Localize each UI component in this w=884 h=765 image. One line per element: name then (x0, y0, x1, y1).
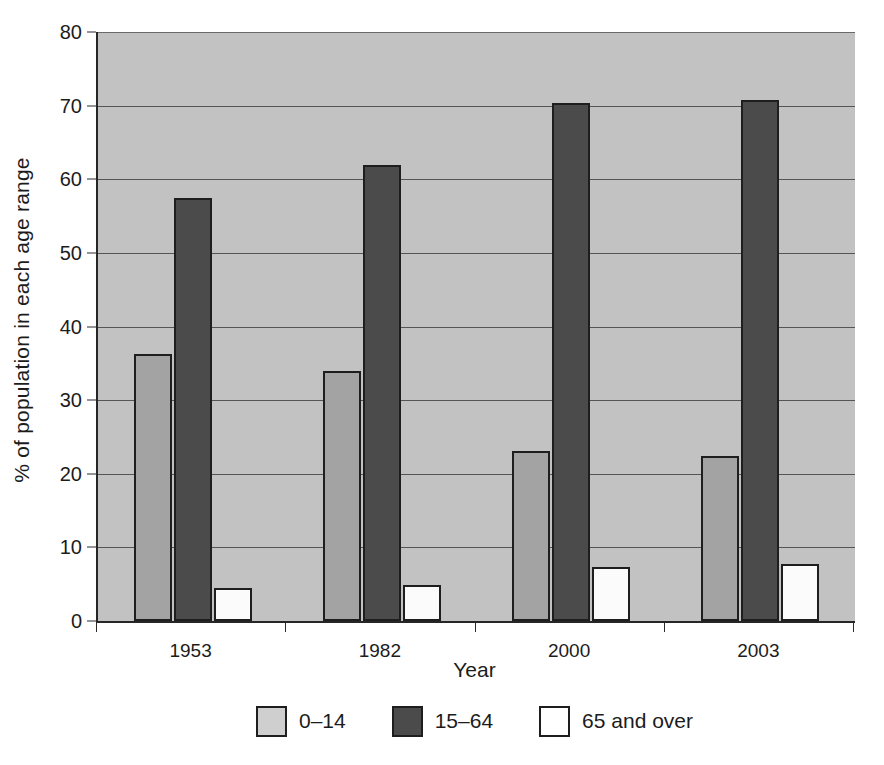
y-tick-label: 30 (60, 389, 82, 412)
legend-swatch (539, 706, 570, 737)
y-tick-label: 10 (60, 536, 82, 559)
y-axis-title-text: % of population in each age range (10, 157, 34, 482)
x-axis-title: Year (96, 658, 853, 682)
y-tick-mark (87, 473, 96, 474)
x-tick-mark (96, 623, 97, 632)
bar (781, 564, 819, 621)
y-tick-label: 60 (60, 168, 82, 191)
bar (214, 588, 252, 621)
y-tick-label: 80 (60, 21, 82, 44)
y-tick-label: 40 (60, 315, 82, 338)
bar-group (477, 32, 666, 621)
bar-chart-figure: % of population in each age range 010203… (0, 0, 884, 765)
chart-legend: 0–1415–6465 and over (96, 698, 853, 744)
x-tick-mark (285, 623, 286, 632)
legend-item: 15–64 (392, 706, 493, 737)
bar-group (666, 32, 855, 621)
y-axis-ticks: 01020304050607080 (44, 0, 96, 640)
bar (323, 371, 361, 621)
bar (592, 567, 630, 621)
legend-swatch (256, 706, 287, 737)
bar (741, 100, 779, 621)
legend-item: 65 and over (539, 706, 693, 737)
bar (701, 456, 739, 621)
x-tick-mark (853, 623, 854, 632)
bar (174, 198, 212, 621)
x-tick-mark (475, 623, 476, 632)
plot-area (96, 32, 855, 623)
legend-label: 0–14 (299, 709, 346, 733)
y-tick-mark (87, 621, 96, 622)
y-tick-mark (87, 400, 96, 401)
bar (512, 451, 550, 621)
bar (134, 354, 172, 621)
bar-group (287, 32, 476, 621)
y-tick-mark (87, 252, 96, 253)
bar (403, 585, 441, 621)
y-tick-mark (87, 105, 96, 106)
y-tick-mark (87, 32, 96, 33)
legend-label: 65 and over (582, 709, 693, 733)
y-tick-mark (87, 326, 96, 327)
y-tick-label: 50 (60, 241, 82, 264)
y-tick-label: 20 (60, 462, 82, 485)
bar-group (98, 32, 287, 621)
x-tick-mark (664, 623, 665, 632)
y-tick-label: 70 (60, 94, 82, 117)
legend-label: 15–64 (435, 709, 493, 733)
y-tick-label: 0 (71, 610, 82, 633)
y-axis-title: % of population in each age range (0, 0, 44, 640)
y-tick-mark (87, 179, 96, 180)
bar (552, 103, 590, 621)
y-tick-mark (87, 547, 96, 548)
legend-swatch (392, 706, 423, 737)
bar (363, 165, 401, 621)
legend-item: 0–14 (256, 706, 346, 737)
